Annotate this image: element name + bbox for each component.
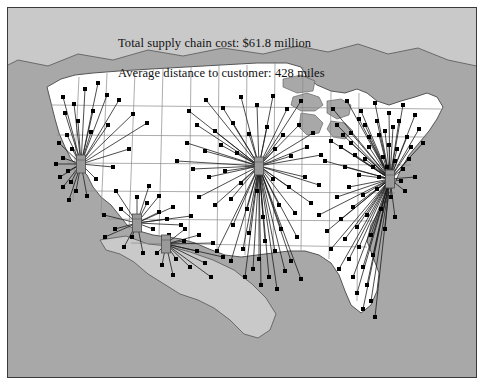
customer-node bbox=[311, 131, 315, 135]
customer-node bbox=[191, 167, 195, 171]
customer-node bbox=[317, 213, 321, 217]
customer-node bbox=[89, 130, 93, 134]
customer-node bbox=[337, 267, 341, 271]
customer-node bbox=[74, 189, 78, 193]
customer-node bbox=[67, 198, 71, 202]
customer-node bbox=[323, 159, 327, 163]
customer-node bbox=[357, 245, 361, 249]
customer-node bbox=[393, 159, 397, 163]
customer-node bbox=[94, 177, 98, 181]
customer-node bbox=[119, 207, 123, 211]
customer-node bbox=[61, 185, 65, 189]
customer-node bbox=[111, 165, 115, 169]
customer-node bbox=[299, 99, 303, 103]
customer-node bbox=[195, 123, 199, 127]
customer-node bbox=[182, 239, 186, 243]
customer-node bbox=[209, 275, 213, 279]
customer-node bbox=[363, 123, 367, 127]
customer-node bbox=[365, 283, 369, 287]
customer-node bbox=[395, 147, 399, 151]
customer-node bbox=[283, 269, 287, 273]
customer-node bbox=[397, 119, 401, 123]
customer-node bbox=[203, 261, 207, 265]
customer-node bbox=[345, 99, 349, 103]
customer-node bbox=[211, 241, 215, 245]
customer-node bbox=[145, 121, 149, 125]
customer-node bbox=[303, 175, 307, 179]
customer-node bbox=[355, 291, 359, 295]
customer-node bbox=[229, 197, 233, 201]
customer-node bbox=[70, 147, 74, 151]
customer-node bbox=[255, 103, 259, 107]
customer-node bbox=[157, 194, 161, 198]
customer-node bbox=[235, 151, 239, 155]
customer-node bbox=[329, 139, 333, 143]
customer-node bbox=[130, 235, 134, 239]
customer-node bbox=[231, 223, 235, 227]
customer-node bbox=[355, 225, 359, 229]
customer-node bbox=[389, 195, 393, 199]
customer-node bbox=[339, 145, 343, 149]
customer-node bbox=[399, 179, 403, 183]
customer-node bbox=[343, 165, 347, 169]
customer-node bbox=[329, 247, 333, 251]
customer-node bbox=[393, 215, 397, 219]
customer-node bbox=[369, 299, 373, 303]
warehouse-icon bbox=[162, 235, 171, 253]
customer-node bbox=[383, 129, 387, 133]
customer-node bbox=[371, 253, 375, 257]
customer-node bbox=[273, 147, 277, 151]
customer-node bbox=[54, 162, 58, 166]
distribution-center-south-central-hub[interactable] bbox=[162, 235, 171, 253]
customer-node bbox=[147, 184, 151, 188]
customer-node bbox=[145, 201, 149, 205]
customer-node bbox=[165, 217, 169, 221]
customer-node bbox=[325, 229, 329, 233]
distribution-center-northeast-hub[interactable] bbox=[386, 170, 395, 188]
customer-node bbox=[213, 129, 217, 133]
customer-node bbox=[203, 149, 207, 153]
customer-node bbox=[155, 251, 159, 255]
customer-node bbox=[265, 125, 269, 129]
customer-node bbox=[377, 133, 381, 137]
distribution-center-west-coast-hub[interactable] bbox=[77, 155, 86, 173]
customer-node bbox=[271, 94, 275, 98]
customer-node bbox=[347, 257, 351, 261]
warehouse-icon bbox=[255, 157, 264, 175]
customer-node bbox=[239, 181, 243, 185]
customer-node bbox=[409, 145, 413, 149]
customer-node bbox=[204, 98, 208, 102]
customer-node bbox=[317, 183, 321, 187]
customer-node bbox=[341, 133, 345, 137]
customer-node bbox=[197, 195, 201, 199]
customer-node bbox=[188, 265, 192, 269]
customer-node bbox=[72, 102, 76, 106]
customer-node bbox=[347, 185, 351, 189]
customer-node bbox=[275, 287, 279, 291]
customer-node bbox=[407, 157, 411, 161]
customer-node bbox=[96, 81, 100, 85]
customer-node bbox=[195, 249, 199, 253]
map-plot-area: Total supply chain cost: $61.8 million A… bbox=[7, 7, 477, 378]
customer-node bbox=[175, 159, 179, 163]
distribution-center-southwest-hub[interactable] bbox=[133, 214, 142, 232]
customer-node bbox=[189, 214, 193, 218]
customer-node bbox=[351, 275, 355, 279]
customer-node bbox=[221, 106, 225, 110]
customer-node bbox=[357, 173, 361, 177]
customer-node bbox=[279, 227, 283, 231]
customer-node bbox=[114, 189, 118, 193]
customer-node bbox=[295, 235, 299, 239]
customer-node bbox=[371, 165, 375, 169]
customer-node bbox=[85, 194, 89, 198]
distribution-center-midwest-hub[interactable] bbox=[255, 157, 264, 175]
customer-node bbox=[281, 133, 285, 137]
customer-node bbox=[319, 153, 323, 157]
customer-node bbox=[385, 165, 389, 169]
customer-node bbox=[171, 273, 175, 277]
customer-node bbox=[117, 98, 121, 102]
customer-node bbox=[277, 203, 281, 207]
customer-node bbox=[259, 283, 263, 287]
customer-node bbox=[58, 175, 62, 179]
customer-node bbox=[417, 127, 421, 131]
